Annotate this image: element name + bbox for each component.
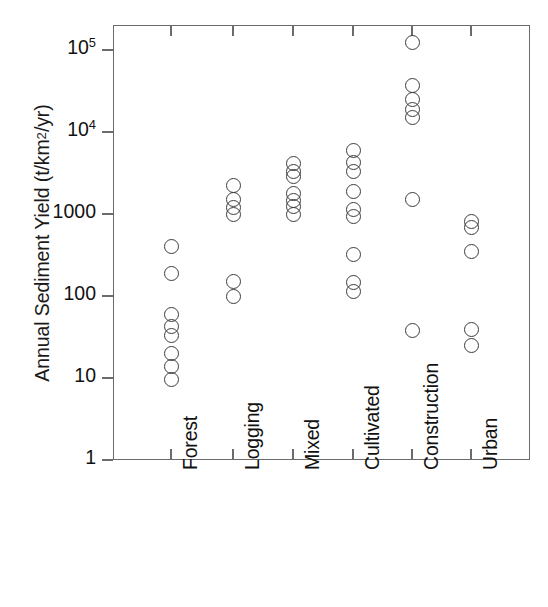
y-axis-tick-mark (102, 377, 113, 378)
x-axis-tick-mark (352, 449, 353, 460)
x-axis-tick-mark-top (352, 25, 353, 36)
data-point (346, 184, 361, 199)
data-point (405, 192, 420, 207)
y-axis-tick-label: 104 (67, 118, 96, 141)
y-axis-tick-mark (102, 49, 113, 50)
x-axis-tick-label-urban: Urban (479, 418, 502, 470)
data-point (226, 207, 241, 222)
x-axis-tick-label-mixed: Mixed (301, 419, 324, 470)
y-axis-tick-mark (102, 131, 113, 132)
x-axis-tick-label-forest: Forest (179, 416, 202, 470)
y-axis-tick-mark (102, 295, 113, 296)
y-axis-tick-mark (102, 213, 113, 214)
data-point (405, 323, 420, 338)
data-point (346, 164, 361, 179)
data-point (346, 284, 361, 299)
data-point (286, 169, 301, 184)
x-axis-tick-mark-top (170, 25, 171, 36)
x-axis-tick-mark (170, 449, 171, 460)
data-point (164, 266, 179, 281)
data-point (464, 338, 479, 353)
x-axis-tick-label-construction: Construction (420, 363, 443, 470)
y-axis-tick-label: 1000 (53, 200, 96, 223)
x-axis-tick-mark (470, 449, 471, 460)
data-point (286, 207, 301, 222)
data-point (226, 289, 241, 304)
y-axis-tick-mark (102, 459, 113, 460)
y-axis-tick-label: 10 (74, 364, 96, 387)
x-axis-tick-mark-top (232, 25, 233, 36)
data-point (405, 35, 420, 50)
data-point (346, 247, 361, 262)
data-point (164, 372, 179, 387)
y-axis-tick-label: 105 (67, 36, 96, 59)
sediment-yield-scatter-figure: Annual Sediment Yield (t/km2/yr) 1101001… (0, 0, 548, 607)
y-axis-label-prefix: Annual Sediment Yield (t/km (31, 139, 54, 381)
data-point (226, 274, 241, 289)
y-axis-label: Annual Sediment Yield (t/km2/yr) (22, 3, 62, 483)
data-point (346, 209, 361, 224)
data-point (464, 322, 479, 337)
data-point (464, 220, 479, 235)
data-point (164, 239, 179, 254)
y-axis-label-suffix: /yr) (31, 104, 54, 132)
data-point (164, 328, 179, 343)
data-point (405, 110, 420, 125)
data-point (464, 244, 479, 259)
y-axis-tick-label: 1 (85, 446, 96, 469)
x-axis-tick-mark-top (292, 25, 293, 36)
x-axis-tick-mark (411, 449, 412, 460)
x-axis-tick-mark-top (470, 25, 471, 36)
data-point (405, 78, 420, 93)
y-axis-tick-label: 100 (63, 282, 96, 305)
x-axis-tick-mark (232, 449, 233, 460)
x-axis-tick-label-cultivated: Cultivated (361, 385, 384, 470)
x-axis-tick-mark (292, 449, 293, 460)
x-axis-tick-label-logging: Logging (241, 402, 264, 470)
